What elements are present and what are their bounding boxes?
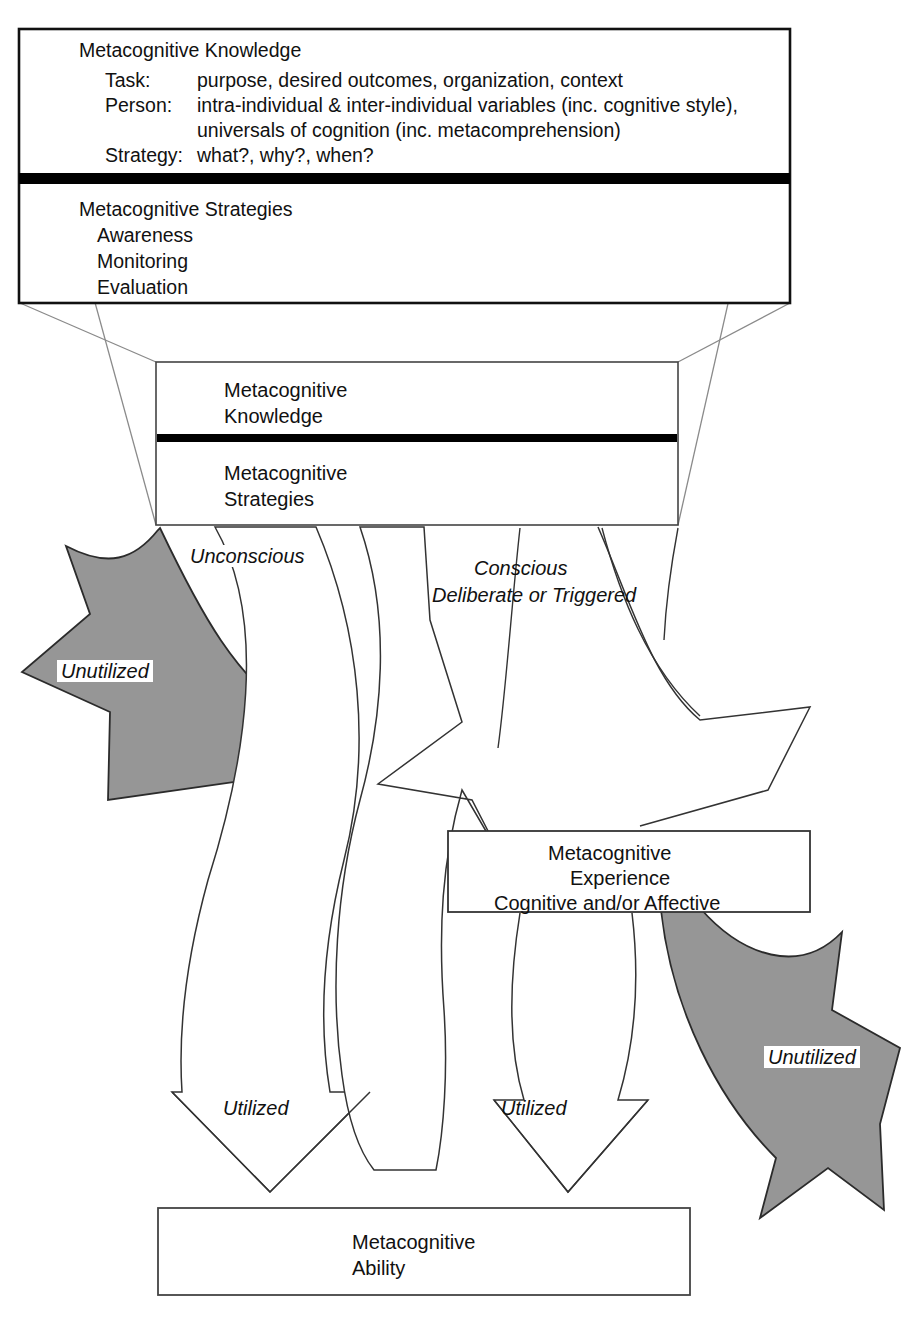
label-utilized-right: Utilized xyxy=(501,1098,567,1118)
top-box-row-label-strategy: Strategy: xyxy=(105,146,183,166)
ability-box-line2: Ability xyxy=(352,1258,405,1278)
top-box-knowledge-heading: Metacognitive Knowledge xyxy=(79,41,301,61)
top-box-divider-bar xyxy=(19,173,790,184)
top-box-row-value-task: purpose, desired outcomes, organization,… xyxy=(197,71,623,91)
middle-box-divider-bar xyxy=(157,434,677,442)
middle-box-strategies-line2: Strategies xyxy=(224,489,314,509)
label-unconscious: Unconscious xyxy=(186,545,309,567)
top-box-row-label-person: Person: xyxy=(105,96,172,116)
middle-box-strategies-line1: Metacognitive xyxy=(224,463,347,483)
middle-box-knowledge-line2: Knowledge xyxy=(224,406,323,426)
top-box-strategies-heading: Metacognitive Strategies xyxy=(79,200,293,220)
label-unutilized-right: Unutilized xyxy=(764,1046,860,1068)
top-box-strategies-item-monitoring: Monitoring xyxy=(97,252,188,272)
ability-box-line1: Metacognitive xyxy=(352,1232,475,1252)
label-utilized-left: Utilized xyxy=(223,1098,289,1118)
top-box-strategies-item-awareness: Awareness xyxy=(97,226,193,246)
middle-box-knowledge-line1: Metacognitive xyxy=(224,380,347,400)
top-box-row-value-person-cont: universals of cognition (inc. metacompre… xyxy=(197,121,621,141)
experience-box-line2: Experience xyxy=(570,868,670,888)
label-conscious-line2: Deliberate or Triggered xyxy=(432,585,636,605)
top-box-strategies-item-evaluation: Evaluation xyxy=(97,278,188,298)
label-unutilized-left: Unutilized xyxy=(57,660,153,682)
top-box-row-label-task: Task: xyxy=(105,71,151,91)
top-box-row-value-person: intra-individual & inter-individual vari… xyxy=(197,96,738,116)
experience-box-line3: Cognitive and/or Affective xyxy=(494,893,720,913)
diagram-canvas: Metacognitive Knowledge Task: purpose, d… xyxy=(0,0,912,1326)
top-box-row-value-strategy: what?, why?, when? xyxy=(197,146,374,166)
label-conscious-line1: Conscious xyxy=(474,558,567,578)
experience-box-line1: Metacognitive xyxy=(548,843,671,863)
